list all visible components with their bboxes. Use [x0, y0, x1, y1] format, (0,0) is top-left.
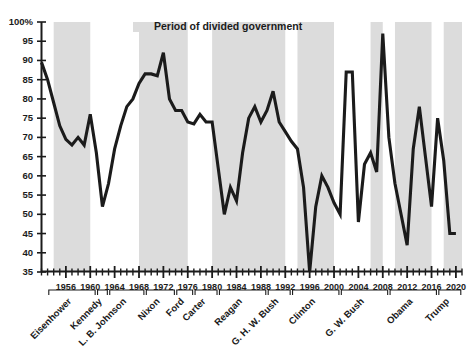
legend: Period of divided government [133, 20, 303, 32]
y-tick-label: 70 [22, 131, 33, 142]
y-tick-label: 35 [22, 266, 33, 277]
y-tick-label: 100% [9, 16, 34, 27]
divided-government-band [212, 22, 285, 272]
y-tick-label: 65 [22, 151, 33, 162]
y-tick-label: 45 [22, 228, 33, 239]
divided-government-band [297, 22, 334, 272]
y-tick-label: 50 [22, 208, 33, 219]
y-tick-label: 40 [22, 247, 33, 258]
y-tick-label: 80 [22, 93, 33, 104]
legend-swatch-divided-government [133, 22, 147, 32]
y-tick-label: 75 [22, 112, 33, 123]
y-tick-label: 55 [22, 189, 33, 200]
y-tick-label: 90 [22, 54, 33, 65]
y-tick-label: 95 [22, 35, 33, 46]
divided-government-line-chart: 35404550556065707580859095100% 195619601… [0, 0, 474, 352]
y-tick-label: 60 [22, 170, 33, 181]
legend-label-divided-government: Period of divided government [154, 20, 303, 32]
chart-container: 35404550556065707580859095100% 195619601… [0, 0, 474, 352]
y-tick-label: 85 [22, 74, 33, 85]
